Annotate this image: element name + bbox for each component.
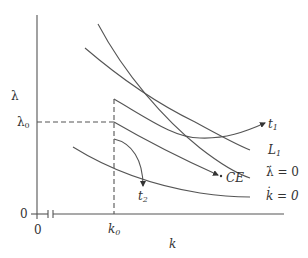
k-dot-zero-label: k̇ = 0 bbox=[266, 190, 299, 202]
lambda-dot-zero-label: λ̇ = 0 bbox=[266, 166, 299, 178]
curve-lambda-dot-zero bbox=[98, 24, 250, 178]
y-axis-label: λ bbox=[11, 90, 19, 102]
CE-point bbox=[220, 175, 222, 177]
x-origin-label: 0 bbox=[34, 224, 42, 236]
curve-t1 bbox=[114, 99, 265, 138]
t2-label: t2 bbox=[138, 190, 148, 204]
phase-diagram bbox=[0, 0, 308, 258]
lambda0-label: λ0 bbox=[17, 116, 30, 130]
x-axis-label: k bbox=[169, 238, 176, 250]
CE-label: CE bbox=[226, 172, 244, 184]
curve-k-dot-zero bbox=[73, 147, 250, 197]
curve-t2 bbox=[114, 139, 143, 186]
t1-label: t1 bbox=[268, 118, 278, 132]
L1-label: L1 bbox=[268, 144, 281, 158]
curve-L1 bbox=[85, 48, 250, 150]
curve-CE bbox=[114, 122, 218, 175]
y-origin-label: 0 bbox=[20, 208, 28, 220]
k0-label: k0 bbox=[108, 223, 120, 237]
